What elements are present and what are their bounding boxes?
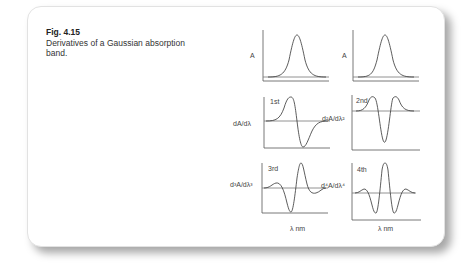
- ylabel-first-derivative: dA/dλ: [233, 120, 251, 127]
- tag-second: 2nd: [356, 97, 368, 104]
- panel-absorbance-left: [263, 30, 329, 81]
- tag-first: 1st: [270, 98, 279, 105]
- tag-third: 3rd: [268, 165, 278, 172]
- ylabel-second-derivative: d²A/dλ²: [322, 115, 345, 122]
- panel-absorbance-right: [353, 30, 419, 81]
- tag-fourth: 4th: [357, 166, 367, 173]
- xlabel-right: λ nm: [378, 225, 393, 232]
- ylabel-fourth-derivative: d⁴A/dλ⁴: [321, 182, 345, 189]
- ylabel-third-derivative: d³A/dλ³: [230, 181, 253, 188]
- xlabel-left: λ nm: [290, 225, 305, 232]
- derivative-plots: A A 1st dA/dλ 2nd d²A/dλ² 3rd d³A/dλ³ 4t…: [0, 0, 474, 267]
- ylabel-absorbance-left: A: [250, 52, 255, 59]
- ylabel-absorbance-right: A: [342, 52, 347, 59]
